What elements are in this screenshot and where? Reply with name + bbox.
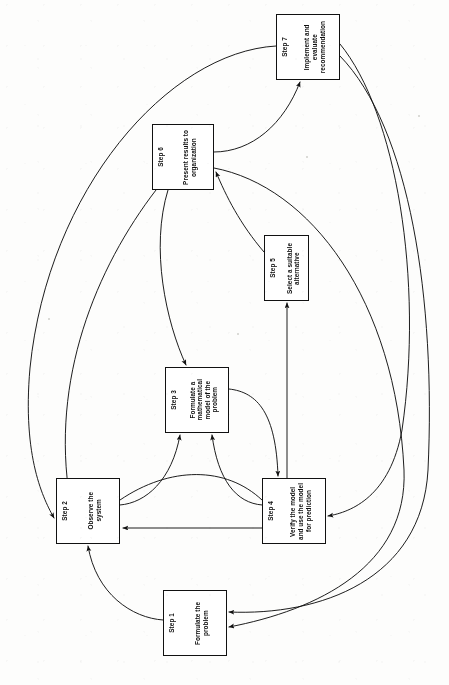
- node-step4[interactable]: Step 4 Verify the model and use the mode…: [262, 478, 326, 544]
- node-step2-step-label: Step 2: [61, 501, 69, 521]
- edge-step3-to-step4: [229, 389, 278, 476]
- node-step6-step-label: Step 6: [157, 147, 165, 167]
- edge-step6-to-step7: [214, 82, 300, 152]
- connector-layer: [0, 0, 449, 685]
- node-step1-step-label: Step 1: [168, 613, 176, 633]
- node-step4-body: Verify the model and use the model for p…: [276, 483, 325, 540]
- node-step1[interactable]: Step 1 Formulate the problem: [163, 590, 227, 656]
- edge-step1-to-step2: [88, 546, 163, 620]
- node-step7[interactable]: Step 7 Implement and evaluate recommenda…: [276, 14, 340, 80]
- edge-step2-to-step4b: [120, 475, 262, 501]
- node-step3[interactable]: Step 3 Formulate a mathematical model of…: [165, 367, 229, 433]
- node-step2-body: Observe the system: [70, 492, 119, 530]
- edge-step6-to-step3: [160, 190, 186, 365]
- node-step5[interactable]: Step 5 Select a suitable alternative: [264, 235, 309, 301]
- edge-step5-to-step6: [216, 172, 264, 252]
- node-step5-body: Select a suitable alternative: [278, 243, 308, 294]
- node-step6[interactable]: Step 6 Present results to organization: [152, 124, 214, 190]
- edge-step7-to-step4: [328, 44, 410, 516]
- node-step3-body: Formulate a mathematical model of the pr…: [179, 379, 228, 420]
- node-step2[interactable]: Step 2 Observe the system: [56, 478, 120, 544]
- node-step1-body: Formulate the problem: [177, 602, 226, 645]
- node-step7-step-label: Step 7: [281, 37, 289, 57]
- node-step7-body: Implement and evaluate recommendation: [290, 21, 339, 73]
- edge-step7-to-step1: [229, 56, 429, 612]
- edge-step4-to-step3: [212, 435, 262, 505]
- edge-step6-to-step2: [65, 190, 156, 500]
- node-step6-body: Present results to organization: [166, 130, 213, 185]
- node-step5-step-label: Step 5: [269, 258, 277, 278]
- node-step4-step-label: Step 4: [267, 501, 275, 521]
- edge-step6-to-step1: [214, 168, 404, 627]
- node-step3-step-label: Step 3: [170, 390, 178, 410]
- diagram-canvas: Step 1 Formulate the problem Step 2 Obse…: [0, 0, 449, 685]
